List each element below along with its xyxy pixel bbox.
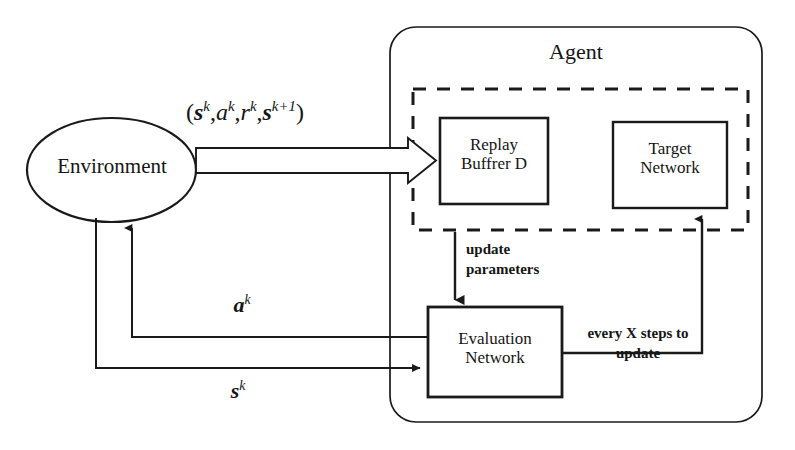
state-input-arrow: [96, 218, 420, 368]
environment-node: [27, 118, 196, 222]
target-sync-arrow: [562, 219, 702, 353]
evaluation-network-node: [428, 307, 562, 397]
replay-buffer-node: [440, 118, 548, 204]
agent-container: [390, 27, 762, 422]
target-network-node: [613, 122, 727, 208]
action-feedback-arrow: [132, 228, 428, 337]
transition-tuple-block-arrow: [196, 138, 436, 183]
diagram-vector-layer: [0, 0, 795, 450]
diagram-canvas: Agent Environment Replay Buffrer D Targe…: [0, 0, 795, 450]
